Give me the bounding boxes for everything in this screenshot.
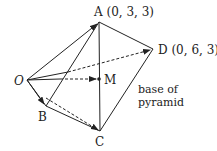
edge-AD [99,22,153,49]
label-C: C [95,135,104,149]
vector-OD [68,50,150,72]
point-M [97,77,101,81]
label-D: D (0, 6, 3) [158,43,217,57]
vector-OC [46,98,98,130]
label-M: M [104,73,116,87]
edge-OB [27,80,46,106]
label-O: O [14,74,24,88]
vector-OA [27,24,97,80]
label-A: A (0, 3, 3) [93,5,154,19]
edge-BA [46,22,99,106]
pyramid-base [46,22,153,131]
annotation-line2: pyramid [138,96,184,109]
edge-CB [46,106,100,131]
annotation-line1: base of [138,83,179,96]
pyramid-vector-diagram: O A (0, 3, 3) D (0, 6, 3) M B C base of … [0,0,217,151]
label-B: B [38,110,47,124]
diagonal-AC [99,22,100,131]
